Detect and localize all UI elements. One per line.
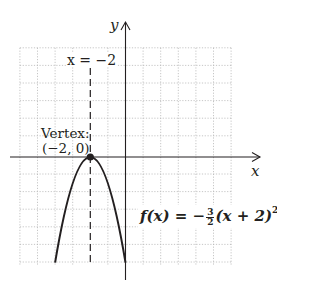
equation-lhs: f(x) = − [140,207,205,225]
equation-exponent: 2 [272,205,277,215]
function-equation: f(x) = −32(x + 2)2 [138,205,277,228]
vertex-label-title: Vertex: [41,127,90,141]
y-axis-label: y [110,18,118,33]
vertex-label-coords: (−2, 0) [42,142,90,156]
equation-fraction: 32 [206,208,214,227]
fraction-numerator: 3 [206,208,214,218]
fraction-denominator: 2 [206,218,214,227]
equation-rhs: (x + 2) [215,207,272,225]
x-axis-label: x [251,164,259,179]
axis-of-symmetry-label: x = −2 [66,53,117,67]
